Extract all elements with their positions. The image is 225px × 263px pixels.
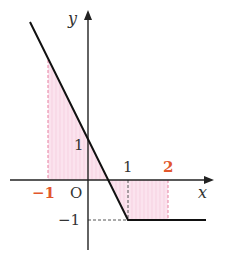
origin-label: O bbox=[70, 184, 82, 202]
tick-label-y-1: 1 bbox=[74, 136, 84, 154]
tick-label-x-1: 1 bbox=[123, 158, 133, 176]
graph-svg: y x O 1 −1 1 2 −1 bbox=[0, 0, 225, 263]
y-axis-label: y bbox=[67, 9, 78, 28]
tick-label-x-neg1: −1 bbox=[32, 184, 55, 202]
tick-label-y-neg1: −1 bbox=[58, 211, 80, 229]
tick-label-x-2: 2 bbox=[163, 158, 173, 176]
x-axis-label: x bbox=[198, 183, 207, 202]
y-axis-arrow-icon bbox=[84, 10, 92, 20]
function-graph-diagram: y x O 1 −1 1 2 −1 bbox=[0, 0, 225, 263]
